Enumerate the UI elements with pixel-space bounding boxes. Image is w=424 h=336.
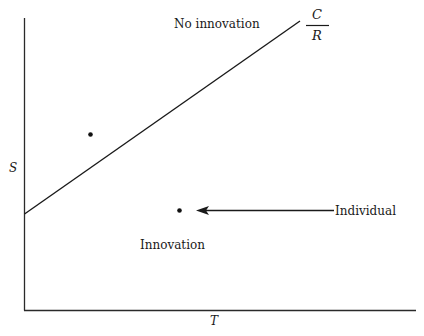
fraction-denominator: R [311, 28, 322, 43]
individual-label: Individual [335, 204, 396, 218]
x-axis-label: T [210, 314, 219, 328]
individual-point [177, 208, 182, 213]
point-above-line [88, 132, 93, 137]
fraction-numerator: C [312, 7, 322, 22]
y-axis-label: S [9, 161, 17, 175]
boundary-line [25, 21, 301, 214]
diagram-canvas: C R No innovation Innovation Individual … [0, 0, 424, 336]
region-label-innovation: Innovation [140, 238, 205, 252]
region-label-no-innovation: No innovation [174, 17, 260, 31]
